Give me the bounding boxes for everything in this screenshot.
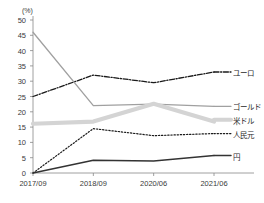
series-label-2: 米ドル	[233, 114, 254, 125]
series-lines	[33, 32, 231, 173]
series-label-3: 人民元	[233, 128, 254, 139]
chart-container: (%) 05101520253035404550 2017/092018/092…	[0, 0, 264, 203]
series-line-3	[33, 129, 214, 173]
plot-area	[0, 0, 264, 203]
series-line-2	[33, 104, 214, 124]
series-line-1	[33, 32, 214, 106]
series-label-1: ゴールド	[233, 101, 261, 112]
series-line-4	[33, 156, 214, 173]
axis-lines	[33, 16, 254, 173]
series-line-0	[33, 72, 214, 96]
axis-tickmarks	[30, 20, 214, 176]
series-label-0: ユーロ	[233, 67, 254, 78]
series-label-4: 円	[233, 150, 240, 161]
